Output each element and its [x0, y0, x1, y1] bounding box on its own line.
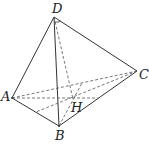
label-H: H	[70, 100, 83, 115]
edge-BC	[59, 71, 137, 126]
label-A: A	[0, 89, 10, 104]
vertex-A-dot	[11, 97, 13, 99]
tetrahedron-diagram: D A B C H	[0, 0, 149, 146]
edge-DC	[54, 17, 137, 71]
edge-DA	[12, 17, 54, 98]
median-C-to-AB	[36, 71, 137, 112]
label-B: B	[54, 128, 65, 143]
vertex-B-dot	[58, 125, 60, 127]
edge-DB	[54, 17, 59, 126]
label-C: C	[139, 67, 149, 82]
edge-AB	[12, 98, 59, 126]
label-D: D	[51, 1, 63, 16]
